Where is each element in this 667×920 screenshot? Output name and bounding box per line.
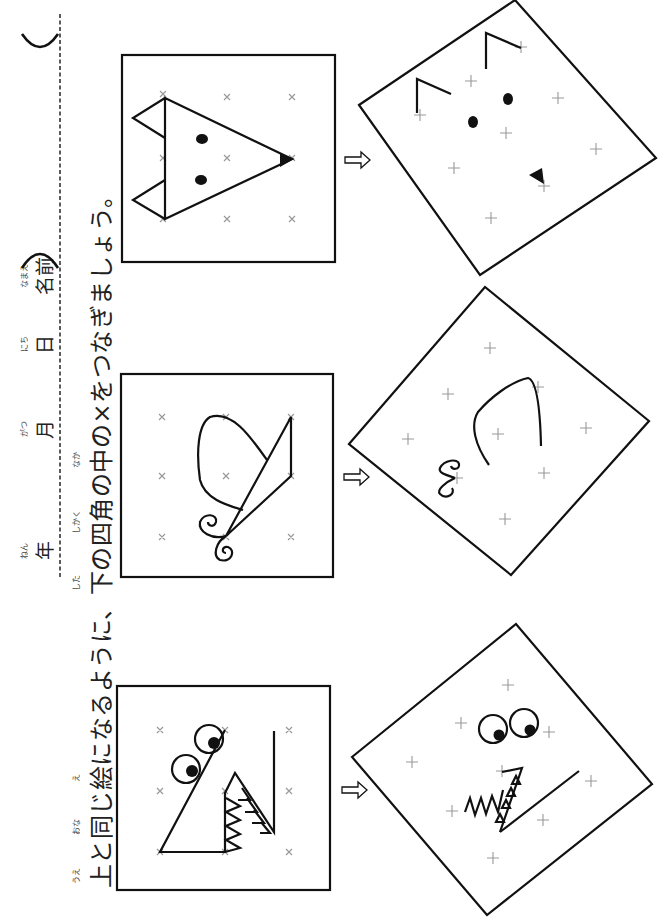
butterfly-example-box [121,374,333,577]
fox-eye-icon [503,93,513,105]
fox-nose-icon [280,153,294,167]
paren-open-icon [22,254,58,268]
fox-face-drawing [133,98,292,219]
monster-target-hint [465,709,579,832]
fox-eye-icon [196,134,208,144]
monster-pupil-icon [494,730,505,741]
grid-markers [159,414,294,540]
arrow-icon [345,152,370,168]
grid-markers [402,342,592,525]
fox-eye-icon [195,175,207,185]
butterfly-target-box [349,287,649,575]
monster-pupil-icon [525,725,536,736]
butterfly-drawing [198,416,291,561]
grid-markers [406,679,597,864]
paren-close-icon [22,34,58,47]
grid-markers [414,41,602,224]
arrow-icon [342,782,367,798]
monster-pupil-icon [208,737,220,749]
fox-example-box [122,55,335,262]
monster-example-box [117,686,330,890]
fox-eye-icon [468,116,478,128]
fox-target-box [359,0,656,275]
arrow-icon [344,469,369,485]
monster-pupil-icon [186,765,198,777]
fox-nose-icon [529,168,544,184]
butterfly-target-hint [439,378,541,496]
instruction-text: うえ上とおな同じえ絵になるように、した下のしかく四角のなか中の×をつなぎましょう… [82,183,117,888]
grid-markers [160,91,295,222]
monster-target-box [352,624,652,915]
